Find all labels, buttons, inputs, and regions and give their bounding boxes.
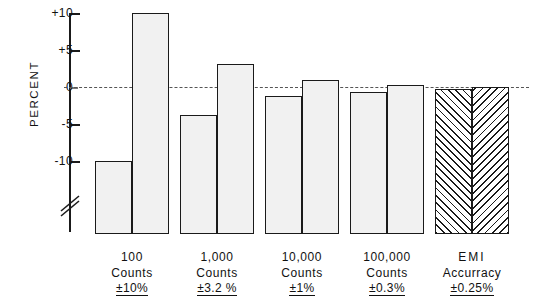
category-5-tolerance: ±0.25% bbox=[450, 282, 493, 296]
category-1-tolerance: ±10% bbox=[116, 282, 148, 296]
bar-group-3-upper bbox=[302, 80, 339, 234]
category-3-tolerance: ±1% bbox=[289, 282, 314, 296]
bar-group-4-upper bbox=[387, 85, 424, 234]
category-5-line2: Accurracy bbox=[422, 266, 522, 282]
bar-group-4-lower bbox=[350, 92, 387, 234]
bar-group-3-lower bbox=[265, 96, 302, 234]
bar-chart: PERCENT +10 +5 0 -5 -10 100 Counts bbox=[0, 0, 535, 306]
bar-group-2-upper bbox=[217, 64, 254, 234]
category-label-5: EMI Accurracy ±0.25% bbox=[422, 250, 522, 297]
category-5-line3: ±0.25% bbox=[422, 281, 522, 297]
category-5-line1: EMI bbox=[422, 250, 522, 266]
bar-group-2-lower bbox=[180, 115, 217, 234]
category-2-tolerance: ±3.2 % bbox=[197, 282, 237, 296]
category-4-tolerance: ±0.3% bbox=[369, 282, 405, 296]
bar-group-5-lower bbox=[435, 89, 472, 234]
bar-group-5-upper bbox=[472, 87, 509, 234]
bar-group-1-upper bbox=[132, 13, 169, 234]
bar-group-1-lower bbox=[95, 161, 132, 234]
